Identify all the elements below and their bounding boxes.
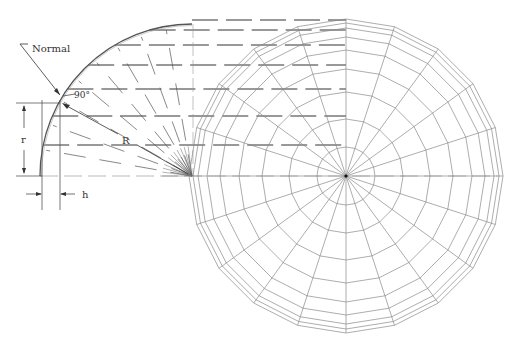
profile-radial-ray <box>53 125 192 176</box>
projection-dashed-lines <box>40 20 498 176</box>
r-arrow-up-icon <box>22 105 26 111</box>
plan-spoke <box>254 176 346 303</box>
h-right-arrowhead-icon <box>60 192 66 196</box>
plan-spoke <box>346 49 438 176</box>
r-arrow-down-icon <box>22 168 26 174</box>
plan-spoke <box>346 176 473 268</box>
h-left-arrowhead-icon <box>36 192 42 196</box>
plan-spoke <box>197 176 346 225</box>
plan-spoke <box>298 27 347 176</box>
R-arrowhead-icon <box>62 103 70 109</box>
angle-label: 90° <box>74 90 90 100</box>
R-dimension-line-lower <box>137 145 188 174</box>
R-dimension-line-upper <box>65 105 118 134</box>
plan-spoke <box>346 128 495 177</box>
plan-spoke <box>346 176 395 325</box>
R-label: R <box>122 135 130 146</box>
plan-center-dot <box>344 174 347 177</box>
plan-spoke <box>219 84 346 176</box>
plan-spoke <box>346 84 473 176</box>
plan-spoke <box>346 176 495 225</box>
r-label: r <box>21 134 26 145</box>
plan-spoke <box>219 176 346 268</box>
plan-spoke <box>298 176 347 325</box>
normal-label: Normal <box>32 43 70 54</box>
profile-radial-ray <box>141 37 192 176</box>
h-label: h <box>82 189 89 200</box>
plan-spoke <box>254 49 346 176</box>
plan-spoke <box>346 176 438 303</box>
dome-plan-polygon <box>189 19 503 333</box>
plan-spoke <box>197 128 346 177</box>
dome-diagram: Normal 90° R r h <box>0 0 512 346</box>
plan-spoke <box>346 27 395 176</box>
